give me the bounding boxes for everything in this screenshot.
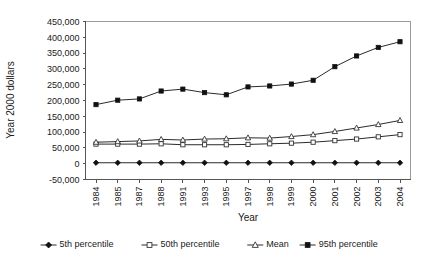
data-point (224, 93, 228, 97)
legend-marker (305, 243, 310, 248)
data-point (180, 160, 185, 165)
y-tick-label: 400,000 (47, 33, 80, 43)
legend-label: 5th percentile (60, 239, 114, 249)
series-layer (93, 40, 402, 166)
legend-label: 50th percentile (161, 239, 220, 249)
data-point (158, 160, 163, 165)
data-point (354, 160, 359, 165)
y-tick-label: 100,000 (47, 127, 80, 137)
y-tick-label: 0 (74, 159, 79, 169)
data-point (94, 103, 98, 107)
x-tick-label: 1997 (243, 187, 253, 207)
x-tick-label: 1988 (156, 187, 166, 207)
data-point (181, 143, 185, 147)
series-5th-percentile (93, 160, 402, 165)
data-point (354, 54, 358, 58)
legend-item-mean[interactable]: Mean (247, 239, 289, 249)
x-tick-label: 1999 (286, 187, 296, 207)
data-point (268, 142, 272, 146)
data-point (268, 84, 272, 88)
data-point (311, 140, 315, 144)
data-point (376, 45, 380, 49)
plot-frame-border (86, 22, 411, 180)
x-tick-label: 2003 (373, 187, 383, 207)
x-tick-label: 1998 (265, 187, 275, 207)
data-point (354, 137, 358, 141)
data-point (397, 160, 402, 165)
data-point (137, 160, 142, 165)
y-tick-label: 250,000 (47, 80, 80, 90)
data-point (159, 89, 163, 93)
chart-container: 450,000400,000350,000300,000250,000200,0… (0, 0, 437, 262)
legend-marker (46, 242, 52, 248)
data-point (333, 65, 337, 69)
legend-item-95th-percentile[interactable]: 95th percentile (300, 239, 378, 249)
x-tick-label: 2001 (330, 187, 340, 207)
line-chart: 450,000400,000350,000300,000250,000200,0… (0, 0, 437, 262)
data-point (224, 143, 228, 147)
y-tick-label: 450,000 (47, 17, 80, 27)
y-tick-label: 150,000 (47, 112, 80, 122)
data-point (116, 98, 120, 102)
x-tick-label: 1985 (113, 187, 123, 207)
x-tick-label: 2002 (352, 187, 362, 207)
data-point (267, 160, 272, 165)
y-axis: 450,000400,000350,000300,000250,000200,0… (47, 17, 86, 185)
data-point (224, 160, 229, 165)
x-tick-label: 1987 (134, 187, 144, 207)
y-tick-label: 300,000 (47, 64, 80, 74)
data-point (159, 142, 163, 146)
legend-label: Mean (266, 239, 289, 249)
data-point (289, 160, 294, 165)
x-axis-title: Year (238, 212, 259, 223)
data-point (246, 85, 250, 89)
data-point (202, 143, 206, 147)
data-point (333, 139, 337, 143)
legend-marker (147, 243, 152, 248)
data-point (310, 160, 315, 165)
x-tick-label: 1993 (200, 187, 210, 207)
x-tick-label: 2000 (308, 187, 318, 207)
data-point (398, 40, 402, 44)
data-point (311, 78, 315, 82)
data-point (202, 91, 206, 95)
data-point (93, 160, 98, 165)
legend-item-50th-percentile[interactable]: 50th percentile (142, 239, 220, 249)
legend-item-5th-percentile[interactable]: 5th percentile (41, 239, 114, 249)
data-point (376, 160, 381, 165)
data-point (289, 82, 293, 86)
data-point (137, 97, 141, 101)
y-tick-label: 350,000 (47, 48, 80, 58)
data-point (376, 135, 380, 139)
y-tick-label: -50,000 (49, 175, 80, 185)
x-tick-label: 1984 (91, 187, 101, 207)
chart-legend: 5th percentile50th percentileMean95th pe… (41, 239, 378, 249)
y-tick-label: 50,000 (52, 143, 80, 153)
data-point (181, 87, 185, 91)
x-tick-label: 1991 (178, 187, 188, 207)
data-point (397, 118, 402, 123)
x-tick-label: 2004 (395, 187, 405, 207)
y-tick-label: 200,000 (47, 96, 80, 106)
data-point (289, 141, 293, 145)
legend-label: 95th percentile (319, 239, 378, 249)
data-point (398, 133, 402, 137)
x-tick-label: 1995 (221, 187, 231, 207)
data-point (246, 142, 250, 146)
data-point (202, 160, 207, 165)
data-point (332, 160, 337, 165)
data-point (245, 160, 250, 165)
plot-frame (86, 22, 411, 180)
series-95th-percentile (94, 40, 402, 107)
x-axis: 1984198519871988199119931995199719981999… (86, 180, 411, 207)
y-axis-title: Year 2000 dollars (5, 61, 16, 138)
data-point (115, 160, 120, 165)
